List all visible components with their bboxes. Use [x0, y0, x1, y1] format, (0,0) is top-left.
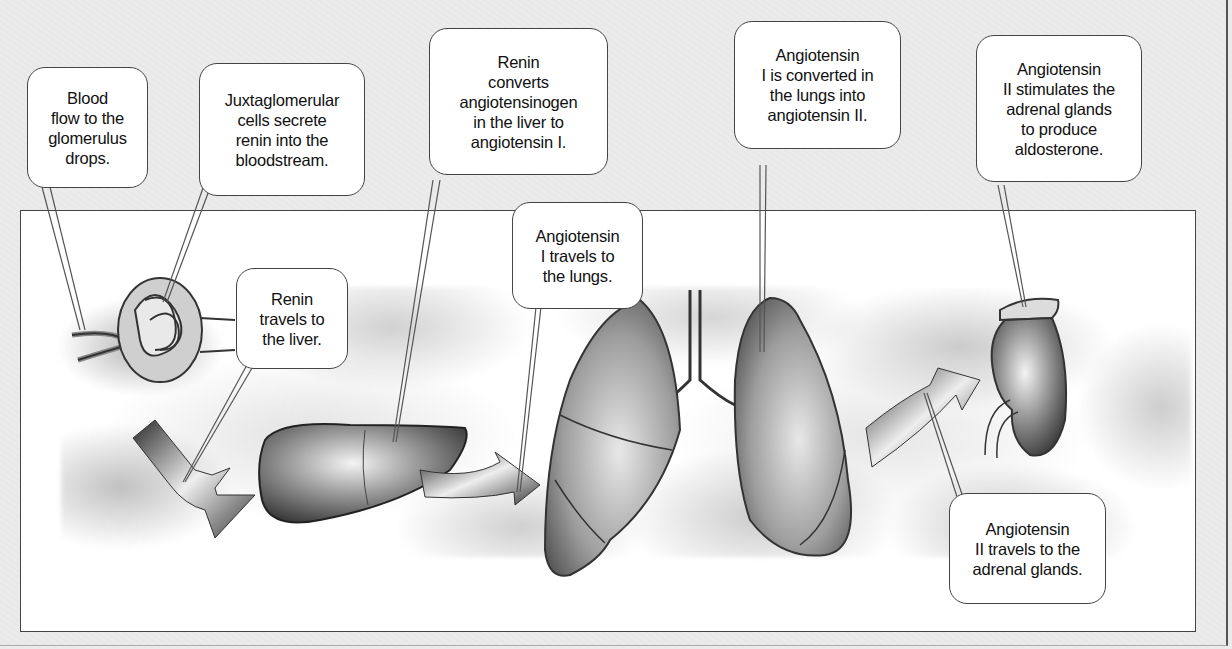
callout-renin-travels-liver: Renin travels to the liver.: [236, 268, 348, 369]
flow-arrow-3: [866, 368, 980, 467]
glomerulus-icon: [72, 278, 235, 382]
callout-angiotensin-i-converted-lungs: Angiotensin I is converted in the lungs …: [734, 21, 901, 149]
callout-angiotensin-i-travels-lungs: Angiotensin I travels to the lungs.: [512, 202, 643, 309]
callout-angiotensin-ii-stimulates-adrenal: Angiotensin II stimulates the adrenal gl…: [976, 35, 1142, 182]
callout-angiotensin-ii-travels-adrenal: Angiotensin II travels to the adrenal gl…: [949, 493, 1106, 604]
callout-juxtaglomerular-secrete-renin: Juxtaglomerular cells secrete renin into…: [199, 63, 365, 196]
callout-blood-flow-drops: Blood flow to the glomerulus drops.: [27, 67, 148, 188]
callout-renin-converts-angiotensinogen: Renin converts angiotensinogen in the li…: [429, 28, 608, 175]
kidney-adrenal-icon: [985, 299, 1066, 458]
lungs-icon: [545, 290, 851, 576]
flow-arrow-1: [133, 420, 255, 538]
